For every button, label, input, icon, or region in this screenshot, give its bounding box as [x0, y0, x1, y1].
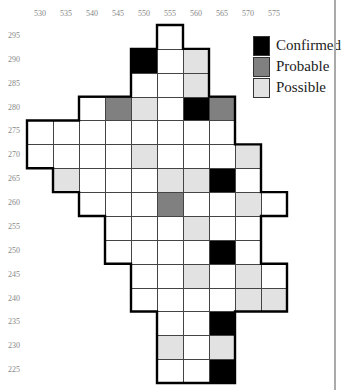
possible-swatch	[253, 78, 270, 98]
legend-label-probable: Probable	[276, 58, 329, 75]
confirmed-swatch	[253, 36, 270, 56]
legend-label-confirmed: Confirmed	[276, 37, 341, 54]
probable-swatch	[253, 57, 270, 77]
legend-confirmed: Confirmed	[253, 36, 333, 56]
page-edge-line	[334, 0, 336, 390]
legend-label-possible: Possible	[276, 79, 326, 96]
legend-probable: Probable	[253, 57, 333, 77]
legend-possible: Possible	[253, 78, 333, 98]
